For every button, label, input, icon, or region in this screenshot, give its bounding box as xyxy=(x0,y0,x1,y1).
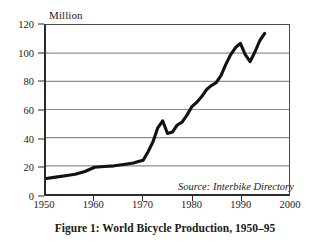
y-axis-tick-label: 100 xyxy=(0,47,34,58)
source-annotation: Source: Interbike Directory xyxy=(178,181,294,192)
x-axis-tick-mark xyxy=(142,196,143,201)
x-axis-tick-mark xyxy=(93,196,94,201)
plot-area xyxy=(44,24,290,196)
y-axis-tick-label: 40 xyxy=(0,133,34,144)
y-axis-tick-label: 80 xyxy=(0,76,34,87)
data-series-line xyxy=(46,25,289,194)
y-axis-unit-label: Million xyxy=(49,9,83,21)
y-axis-tick-label: 60 xyxy=(0,105,34,116)
y-axis-tick-label: 120 xyxy=(0,19,34,30)
x-axis-tick-label: 2000 xyxy=(267,199,313,210)
x-axis-tick-label: 1950 xyxy=(21,199,67,210)
figure-caption: Figure 1: World Bicycle Production, 1950… xyxy=(0,222,330,234)
y-axis-tick-label: 20 xyxy=(0,162,34,173)
figure-container: Million 020406080100120 1950196019701980… xyxy=(0,0,330,246)
x-axis-tick-mark xyxy=(192,196,193,201)
x-axis-tick-mark xyxy=(241,196,242,201)
